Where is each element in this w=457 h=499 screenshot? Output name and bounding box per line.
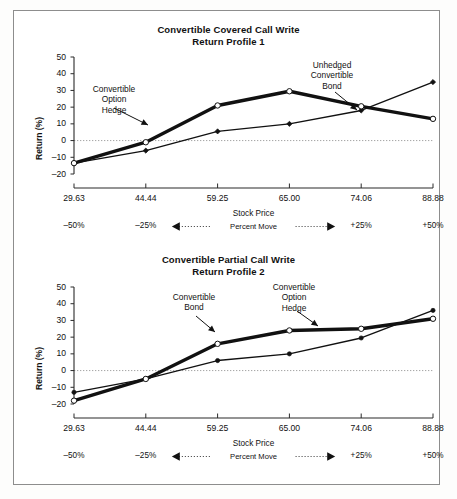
data-point-marker [359, 104, 364, 109]
percent-move-arrow [0, 449, 457, 467]
data-point-marker [430, 79, 435, 84]
chart-panel-1: Convertible Covered Call Write Return Pr… [0, 24, 457, 254]
data-point-marker [71, 160, 76, 165]
annotation-line: Hedge [252, 303, 336, 313]
data-point-marker [287, 328, 292, 333]
y-tick-label: 10 [40, 118, 66, 128]
data-point-marker [359, 326, 364, 331]
y-tick-label: 30 [40, 315, 66, 325]
x-tick-label: 74.06 [337, 423, 385, 433]
annotation-line: Bond [152, 302, 236, 312]
y-tick-label: –20 [40, 399, 66, 409]
data-point-marker [216, 358, 220, 362]
y-tick-label: 30 [40, 85, 66, 95]
data-point-marker [215, 103, 220, 108]
annotation-line: Hedge [72, 105, 156, 115]
x-tick-label: 65.00 [265, 193, 313, 203]
annotation-line: Convertible [290, 70, 374, 80]
annotation-line: Option [252, 292, 336, 302]
y-tick-label: –10 [40, 152, 66, 162]
data-point-marker [143, 376, 148, 381]
annotation-line: Convertible [252, 282, 336, 292]
y-tick-label: 0 [40, 365, 66, 375]
data-point-marker [359, 336, 363, 340]
data-point-marker [287, 352, 291, 356]
data-point-marker [72, 390, 76, 394]
annotation-line: Convertible [152, 292, 236, 302]
chart-2-annotation-hedge: ConvertibleOptionHedge [252, 282, 336, 313]
x-tick-label: 59.25 [194, 193, 242, 203]
annotation-line: Option [72, 94, 156, 104]
x-tick-label: 44.44 [122, 423, 170, 433]
chart-1-annotation-hedge: ConvertibleOptionHedge [72, 84, 156, 115]
data-point-marker [431, 308, 435, 312]
x-tick-label: 65.00 [265, 423, 313, 433]
x-tick-label: 44.44 [122, 193, 170, 203]
annotation-line: Convertible [72, 84, 156, 94]
y-tick-label: 40 [40, 68, 66, 78]
data-point-marker [215, 341, 220, 346]
data-point-marker [71, 398, 76, 403]
percent-move-arrow [0, 219, 457, 237]
y-tick-label: 20 [40, 102, 66, 112]
chart-panel-2: Convertible Partial Call Write Return Pr… [0, 254, 457, 485]
x-tick-label: 29.63 [50, 193, 98, 203]
data-point-marker [430, 116, 435, 121]
data-point-marker [430, 316, 435, 321]
y-tick-label: 40 [40, 298, 66, 308]
chart-2-annotation-bond: ConvertibleBond [152, 292, 236, 313]
chart-1-annotation-bond: UnhedgedConvertibleBond [290, 60, 374, 91]
chart-2-x-axis-label: Stock Price [12, 439, 457, 448]
y-tick-label: –20 [40, 169, 66, 179]
y-tick-label: 50 [40, 282, 66, 292]
y-tick-label: 20 [40, 332, 66, 342]
y-tick-label: 10 [40, 348, 66, 358]
figure-page: Convertible Covered Call Write Return Pr… [0, 0, 457, 499]
data-point-marker [143, 140, 148, 145]
data-point-marker [287, 121, 292, 126]
series-line-bond [74, 310, 433, 392]
annotation-arrow [196, 316, 215, 332]
y-tick-label: –10 [40, 382, 66, 392]
x-tick-label: 29.63 [50, 423, 98, 433]
chart-1-x-axis-label: Stock Price [12, 209, 457, 218]
data-point-marker [215, 129, 220, 134]
x-tick-label: 59.25 [194, 423, 242, 433]
x-tick-label: 74.06 [337, 193, 385, 203]
annotation-line: Bond [290, 81, 374, 91]
y-tick-label: 50 [40, 52, 66, 62]
data-point-marker [143, 148, 148, 153]
annotation-line: Unhedged [290, 60, 374, 70]
annotation-arrow [297, 311, 318, 326]
x-tick-label: 88.88 [409, 423, 457, 433]
x-tick-label: 88.88 [409, 193, 457, 203]
y-tick-label: 0 [40, 135, 66, 145]
